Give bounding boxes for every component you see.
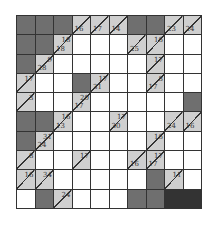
down-sum: 16 xyxy=(75,26,84,33)
down-sum: 24 xyxy=(38,142,47,149)
entry-cell[interactable] xyxy=(147,112,165,130)
entry-cell[interactable] xyxy=(73,132,91,150)
clue-cell: 16 xyxy=(147,35,165,53)
entry-cell[interactable] xyxy=(91,151,109,169)
entry-cell[interactable] xyxy=(73,35,91,53)
entry-cell[interactable] xyxy=(128,93,146,111)
entry-cell[interactable] xyxy=(54,132,72,150)
entry-cell[interactable] xyxy=(184,35,202,53)
down-sum: 18 xyxy=(56,46,65,53)
across-sum: 16 xyxy=(154,37,163,44)
across-sum: 17 xyxy=(80,153,89,160)
blocked-cell xyxy=(54,16,72,34)
entry-cell[interactable] xyxy=(128,112,146,130)
clue-cell: 16 xyxy=(17,170,35,188)
entry-cell[interactable] xyxy=(110,132,128,150)
blocked-cell xyxy=(73,74,91,92)
blocked-cell xyxy=(17,35,35,53)
entry-cell[interactable] xyxy=(128,74,146,92)
down-sum: 16 xyxy=(130,161,139,168)
entry-cell[interactable] xyxy=(165,35,183,53)
down-sum: 28 xyxy=(38,65,47,72)
across-sum: 8 xyxy=(159,76,163,83)
clue-cell: 24 xyxy=(184,16,202,34)
blocked-cell xyxy=(36,16,54,34)
entry-cell[interactable] xyxy=(91,55,109,73)
entry-cell[interactable] xyxy=(165,55,183,73)
blocked-cell xyxy=(147,190,165,208)
down-sum: 31 xyxy=(93,84,102,91)
entry-cell[interactable] xyxy=(73,55,91,73)
entry-cell[interactable] xyxy=(184,132,202,150)
entry-cell[interactable] xyxy=(147,93,165,111)
entry-cell[interactable] xyxy=(54,151,72,169)
entry-cell[interactable] xyxy=(165,74,183,92)
across-sum: 17 xyxy=(154,57,163,64)
entry-cell[interactable] xyxy=(91,170,109,188)
entry-cell[interactable] xyxy=(165,132,183,150)
entry-cell[interactable] xyxy=(110,35,128,53)
entry-cell[interactable] xyxy=(91,190,109,208)
entry-cell[interactable] xyxy=(36,74,54,92)
down-sum: 17 xyxy=(149,161,158,168)
clue-cell: 14 xyxy=(110,16,128,34)
entry-cell[interactable] xyxy=(184,170,202,188)
across-sum: 3 xyxy=(29,95,33,102)
clue-cell: 17 xyxy=(73,151,91,169)
entry-cell[interactable] xyxy=(91,132,109,150)
clue-cell: 11 xyxy=(165,170,183,188)
entry-cell[interactable] xyxy=(110,151,128,169)
blocked-cell xyxy=(184,93,202,111)
entry-cell[interactable] xyxy=(36,93,54,111)
down-sum: 24 xyxy=(186,26,195,33)
across-sum: 17 xyxy=(99,76,108,83)
across-sum: 8 xyxy=(29,153,33,160)
entry-cell[interactable] xyxy=(73,190,91,208)
clue-cell: 928 xyxy=(36,55,54,73)
entry-cell[interactable] xyxy=(110,190,128,208)
blocked-cell xyxy=(17,132,35,150)
across-sum: 17 xyxy=(154,153,163,160)
blocked-cell xyxy=(147,170,165,188)
down-sum: 30 xyxy=(112,123,121,130)
entry-cell[interactable] xyxy=(128,55,146,73)
entry-cell[interactable] xyxy=(184,151,202,169)
down-sum: 17 xyxy=(149,84,158,91)
entry-cell[interactable] xyxy=(54,55,72,73)
across-sum: 11 xyxy=(173,172,182,179)
entry-cell[interactable] xyxy=(73,112,91,130)
clue-cell: 17 xyxy=(17,74,35,92)
across-sum: 20 xyxy=(80,95,89,102)
clue-cell: 17 xyxy=(147,55,165,73)
entry-cell[interactable] xyxy=(184,55,202,73)
entry-cell[interactable] xyxy=(128,132,146,150)
blocked-cell xyxy=(147,16,165,34)
down-sum: 23 xyxy=(167,26,176,33)
blocked-cell xyxy=(36,35,54,53)
entry-cell[interactable] xyxy=(36,151,54,169)
entry-cell[interactable] xyxy=(110,74,128,92)
entry-cell[interactable] xyxy=(165,93,183,111)
entry-cell[interactable] xyxy=(91,112,109,130)
blocked-cell xyxy=(36,112,54,130)
entry-cell[interactable] xyxy=(110,170,128,188)
entry-cell[interactable] xyxy=(110,93,128,111)
entry-cell[interactable] xyxy=(128,170,146,188)
entry-cell[interactable] xyxy=(54,170,72,188)
entry-cell[interactable] xyxy=(165,151,183,169)
clue-cell: 3 xyxy=(17,93,35,111)
entry-cell[interactable] xyxy=(54,93,72,111)
entry-cell[interactable] xyxy=(73,170,91,188)
entry-cell[interactable] xyxy=(17,190,35,208)
entry-cell[interactable] xyxy=(91,93,109,111)
entry-cell[interactable] xyxy=(110,55,128,73)
entry-cell[interactable] xyxy=(54,74,72,92)
clue-cell: 24 xyxy=(54,190,72,208)
clue-cell: 1818 xyxy=(54,35,72,53)
clue-cell: 16 xyxy=(73,16,91,34)
entry-cell[interactable] xyxy=(91,35,109,53)
clue-cell: 1730 xyxy=(110,112,128,130)
across-sum: 18 xyxy=(62,37,71,44)
entry-cell[interactable] xyxy=(184,74,202,92)
clue-cell: 1731 xyxy=(91,74,109,92)
